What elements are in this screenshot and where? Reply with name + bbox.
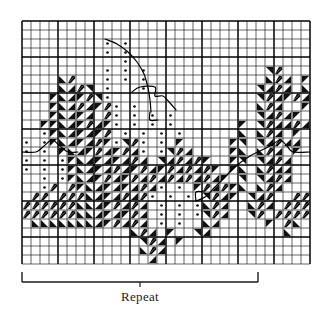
- chart-cell: [133, 123, 136, 126]
- chart-cell: [124, 69, 127, 72]
- chart-cell: [187, 195, 190, 198]
- chart-cell: [43, 186, 46, 189]
- chart-cell: [25, 159, 28, 162]
- chart-cell: [43, 168, 46, 171]
- chart-cell: [178, 213, 181, 216]
- chart-cell: [160, 213, 163, 216]
- chart-cell: [61, 168, 64, 171]
- chart-cell: [133, 114, 136, 117]
- chart-cell: [142, 150, 145, 153]
- chart-cell: [115, 105, 118, 108]
- chart-cell: [142, 132, 145, 135]
- chart-cell: [151, 195, 154, 198]
- chart-cell: [124, 78, 127, 81]
- chart-cell: [25, 141, 28, 144]
- chart-cell: [160, 222, 163, 225]
- chart-cell: [151, 114, 154, 117]
- chart-cell: [43, 177, 46, 180]
- chart-cell: [106, 69, 109, 72]
- chart-cell: [169, 123, 172, 126]
- chart-cell: [196, 213, 199, 216]
- chart-cell: [124, 60, 127, 63]
- chart-cell: [61, 177, 64, 180]
- chart-canvas: [0, 0, 333, 319]
- chart-cell: [178, 132, 181, 135]
- chart-cell: [106, 87, 109, 90]
- knitting-chart-figure: Repeat: [0, 0, 333, 319]
- chart-cell: [178, 222, 181, 225]
- chart-cell: [106, 51, 109, 54]
- chart-cell: [142, 78, 145, 81]
- chart-cell: [133, 105, 136, 108]
- chart-cell: [43, 150, 46, 153]
- repeat-label: Repeat: [0, 289, 280, 305]
- chart-cell: [115, 141, 118, 144]
- chart-cell: [43, 141, 46, 144]
- chart-cell: [142, 141, 145, 144]
- chart-cell: [25, 168, 28, 171]
- chart-cell: [160, 132, 163, 135]
- chart-cell: [169, 114, 172, 117]
- chart-cell: [106, 96, 109, 99]
- chart-cell: [169, 195, 172, 198]
- chart-cell: [115, 114, 118, 117]
- chart-cell: [160, 150, 163, 153]
- chart-cell: [43, 132, 46, 135]
- chart-cell: [178, 186, 181, 189]
- chart-cell: [142, 87, 145, 90]
- chart-cell: [43, 159, 46, 162]
- chart-cell: [61, 159, 64, 162]
- chart-cell: [151, 123, 154, 126]
- chart-cell: [124, 132, 127, 135]
- chart-cell: [124, 42, 127, 45]
- chart-cell: [115, 123, 118, 126]
- chart-cell: [106, 42, 109, 45]
- chart-cell: [160, 141, 163, 144]
- chart-cell: [178, 204, 181, 207]
- chart-cell: [160, 204, 163, 207]
- chart-cell: [196, 204, 199, 207]
- chart-cell: [106, 78, 109, 81]
- chart-cell: [160, 186, 163, 189]
- chart-cell: [124, 51, 127, 54]
